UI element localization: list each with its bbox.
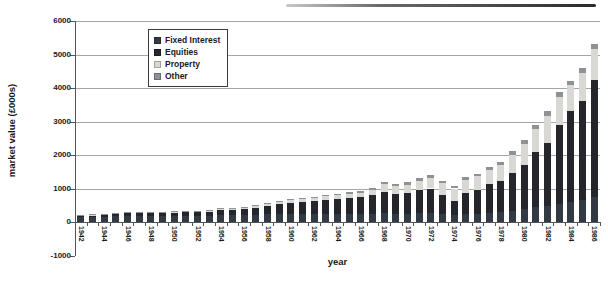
x-tick	[203, 222, 204, 226]
fixed-interest-swatch-icon	[154, 37, 161, 44]
bar-segment-fixed-interest	[217, 215, 224, 222]
bar-segment-fixed-interest	[206, 216, 213, 222]
x-tick-label: 1942	[77, 226, 85, 242]
bar-segment-property	[194, 211, 201, 212]
bar-segment-equities	[194, 212, 201, 216]
bar-segment-property	[556, 97, 563, 124]
bar-segment-property	[427, 178, 434, 189]
x-tick-label: 1984	[567, 226, 575, 242]
x-tick-label: 1954	[217, 226, 225, 242]
bar-segment-fixed-interest	[147, 216, 154, 222]
bar-segment-other	[311, 197, 318, 198]
bar-segment-property	[171, 212, 178, 213]
bar-segment-equities	[217, 210, 224, 215]
x-tick	[413, 222, 414, 226]
bar-segment-fixed-interest	[567, 202, 574, 222]
bar-segment-other	[532, 125, 539, 129]
bar-segment-property	[486, 170, 493, 185]
bar-segment-fixed-interest	[532, 207, 539, 222]
bar-segment-property	[474, 176, 481, 189]
bar-segment-equities	[171, 213, 178, 216]
bar-segment-other	[509, 151, 516, 155]
x-tick-label: 1986	[590, 226, 598, 242]
bar-segment-fixed-interest	[136, 216, 143, 222]
bar-segment-fixed-interest	[299, 214, 306, 222]
bar-segment-fixed-interest	[451, 215, 458, 222]
bar-segment-other	[486, 167, 493, 170]
bar-segment-other	[474, 174, 481, 177]
bar-segment-property	[322, 196, 329, 199]
x-tick	[320, 222, 321, 226]
x-tick	[530, 222, 531, 226]
bar-segment-other	[544, 111, 551, 116]
bar-segment-property	[101, 214, 108, 215]
bar-segment-property	[497, 165, 504, 181]
x-tick-label: 1952	[194, 226, 202, 242]
bar-segment-fixed-interest	[171, 216, 178, 222]
bar-segment-other	[322, 195, 329, 196]
x-tick	[180, 222, 181, 226]
bar-segment-equities	[556, 125, 563, 204]
bar-segment-fixed-interest	[404, 214, 411, 222]
bar-segment-equities	[182, 212, 189, 216]
bar-segment-property	[521, 144, 528, 165]
bar-segment-other	[579, 68, 586, 73]
bar-segment-property	[381, 184, 388, 192]
gridline-4000	[75, 88, 600, 89]
bar-segment-fixed-interest	[497, 212, 504, 222]
bar-segment-property	[392, 186, 399, 194]
x-tick	[75, 222, 76, 226]
bar-segment-equities	[264, 206, 271, 214]
x-tick-label: 1978	[497, 226, 505, 242]
x-tick	[227, 222, 228, 226]
bar-segment-property	[252, 206, 259, 208]
y-axis-title-wrap: market value (£000s)	[0, 30, 24, 230]
bar-segment-fixed-interest	[381, 213, 388, 222]
bar-segment-other	[416, 178, 423, 181]
bar-segment-other	[392, 184, 399, 186]
bar-segment-fixed-interest	[89, 217, 96, 222]
bar-segment-fixed-interest	[357, 214, 364, 222]
bar-segment-other	[264, 203, 271, 204]
x-tick-label: 1946	[124, 226, 132, 242]
bar-segment-fixed-interest	[439, 214, 446, 222]
x-tick-label: 1976	[474, 226, 482, 242]
bar-segment-other	[404, 182, 411, 184]
x-tick	[355, 222, 356, 226]
y-tick-label: 1000	[37, 185, 71, 193]
bar-segment-property	[206, 210, 213, 211]
bar-segment-fixed-interest	[346, 214, 353, 222]
bar-segment-equities	[544, 143, 551, 206]
legend-label: Property	[165, 60, 200, 69]
x-tick-label: 1974	[450, 226, 458, 242]
equities-swatch-icon	[154, 49, 161, 56]
x-tick	[495, 222, 496, 226]
bar-segment-fixed-interest	[276, 214, 283, 222]
bar-segment-property	[462, 180, 469, 193]
bar-segment-equities	[486, 184, 493, 212]
y-tick-label: 6000	[37, 17, 71, 25]
bar-segment-property	[217, 209, 224, 210]
x-tick	[577, 222, 578, 226]
bar-segment-equities	[497, 181, 504, 212]
bar-segment-other	[217, 208, 224, 209]
x-tick	[483, 222, 484, 226]
bar-segment-property	[544, 116, 551, 143]
bar-segment-equities	[322, 200, 329, 214]
x-tick-label: 1962	[310, 226, 318, 242]
bar-segment-property	[124, 212, 131, 213]
bar-segment-equities	[334, 199, 341, 214]
x-tick	[297, 222, 298, 226]
bar-segment-equities	[451, 201, 458, 215]
bar-segment-fixed-interest	[369, 214, 376, 222]
legend-label: Other	[165, 72, 188, 81]
x-tick	[87, 222, 88, 226]
x-tick-label: 1944	[100, 226, 108, 242]
x-tick-label: 1968	[380, 226, 388, 242]
x-tick-label: 1982	[544, 226, 552, 242]
bar-segment-equities	[509, 173, 516, 210]
bar-segment-equities	[567, 111, 574, 201]
x-tick-label: 1960	[287, 226, 295, 242]
y-tick-label: 3000	[37, 118, 71, 126]
bar-segment-equities	[404, 193, 411, 213]
